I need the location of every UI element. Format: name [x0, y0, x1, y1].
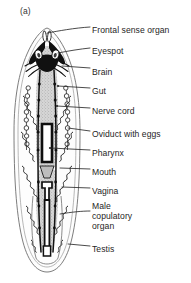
- panel-label: (a): [20, 6, 31, 16]
- label-testis: Testis: [92, 244, 114, 254]
- male-copulatory-organ-structure: [43, 200, 50, 256]
- label-oviduct-with-eggs: Oviduct with eggs: [92, 129, 161, 139]
- label-gut: Gut: [92, 86, 106, 96]
- label-mouth: Mouth: [92, 167, 116, 177]
- pharynx-structure: [42, 124, 52, 162]
- label-male-copulatory-organ-line-2: copulatory: [92, 211, 132, 221]
- label-frontal-sense-organ: Frontal sense organ: [92, 25, 169, 35]
- label-male-copulatory-organ: Male copulatory organ: [92, 201, 132, 232]
- planarian-anatomy-figure: [0, 0, 191, 283]
- label-male-copulatory-organ-line-3: organ: [92, 221, 132, 231]
- label-nerve-cord: Nerve cord: [92, 106, 135, 116]
- label-eyespot: Eyespot: [92, 46, 123, 56]
- label-brain: Brain: [92, 67, 112, 77]
- label-male-copulatory-organ-line-1: Male: [92, 201, 132, 211]
- label-vagina: Vagina: [92, 186, 118, 196]
- label-pharynx: Pharynx: [92, 148, 124, 158]
